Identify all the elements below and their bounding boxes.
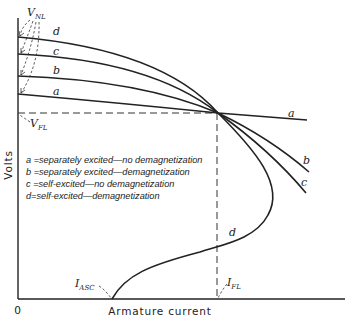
x-axis-label: Armature current xyxy=(108,305,211,317)
i-asc-label: IASC xyxy=(74,277,95,292)
curve-a-label-right: a xyxy=(288,107,295,120)
curve-a xyxy=(18,94,307,120)
legend: a =separately excited—no demagnetization… xyxy=(26,155,202,201)
i-fl-label: IFL xyxy=(226,276,241,291)
curve-b-label-left: b xyxy=(53,64,60,77)
curve-d-label-left: d xyxy=(53,25,60,38)
legend-item-b: b =separately excited—demagnetization xyxy=(26,167,190,177)
origin-label: 0 xyxy=(14,304,21,316)
legend-item-c: c =self-excited—no demagnetization xyxy=(26,179,174,189)
curve-c-label-right: c xyxy=(301,176,307,189)
curve-d-label-lower: d xyxy=(229,226,236,239)
y-axis-label: Volts xyxy=(2,150,14,179)
v-nl-arrows xyxy=(19,20,39,93)
generator-characteristics-diagram: VNL VFL IASC IFL d c b a a b c d a =sepa… xyxy=(0,0,353,321)
v-fl-label: VFL xyxy=(30,117,48,132)
i-fl-arrow xyxy=(218,284,227,298)
diagram-canvas: VNL VFL IASC IFL d c b a a b c d a =sepa… xyxy=(0,0,353,321)
i-asc-arrow xyxy=(99,286,111,298)
curve-b-label-right: b xyxy=(303,154,310,167)
v-fl-arrow xyxy=(20,115,30,122)
curve-c-label-left: c xyxy=(53,45,59,58)
legend-item-a: a =separately excited—no demagnetization xyxy=(26,155,202,165)
v-nl-label: VNL xyxy=(27,6,46,21)
legend-item-d: d=self-excited—demagnetization xyxy=(26,191,160,201)
curve-a-label-left: a xyxy=(53,85,60,98)
